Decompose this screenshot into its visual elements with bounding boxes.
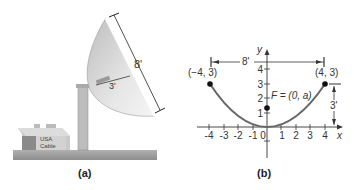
svg-text:3: 3 bbox=[307, 130, 313, 141]
figure: USA Cable 8' 3' (a) bbox=[0, 0, 354, 190]
panel-b-graph: -4 -3 -2 -1 0 1 2 3 4 x y 1 2 3 4 (−4, 3… bbox=[188, 44, 343, 158]
x-tick-labels: -4 -3 -2 -1 0 1 2 3 4 bbox=[205, 130, 329, 141]
dish-pole bbox=[78, 86, 88, 150]
svg-text:2: 2 bbox=[257, 93, 263, 104]
cable-building: USA Cable bbox=[18, 124, 70, 150]
svg-text:0: 0 bbox=[260, 130, 266, 141]
svg-text:1: 1 bbox=[257, 108, 263, 119]
svg-text:4: 4 bbox=[257, 64, 263, 75]
svg-text:-1: -1 bbox=[249, 130, 258, 141]
svg-text:4: 4 bbox=[322, 130, 328, 141]
x-axis-label: x bbox=[336, 130, 343, 141]
dish-depth-label: 3' bbox=[109, 81, 116, 91]
point-right-label: (4, 3) bbox=[315, 67, 338, 78]
point-left-label: (−4, 3) bbox=[188, 67, 217, 78]
ground bbox=[13, 150, 157, 160]
svg-text:1: 1 bbox=[279, 130, 285, 141]
svg-text:-3: -3 bbox=[220, 130, 229, 141]
width-label: 8' bbox=[242, 56, 250, 67]
pole-cap bbox=[76, 84, 90, 88]
sign-cable: Cable bbox=[40, 143, 56, 149]
point-right bbox=[322, 81, 328, 87]
sign-usa: USA bbox=[40, 136, 52, 142]
caption-b: (b) bbox=[257, 167, 271, 179]
y-tick-labels: 1 2 3 4 bbox=[257, 64, 263, 119]
panel-a-illustration: USA Cable 8' 3' bbox=[13, 13, 165, 160]
satellite-dish bbox=[87, 18, 155, 116]
height-label: 3' bbox=[330, 100, 338, 111]
focus-point bbox=[264, 105, 270, 111]
svg-text:3: 3 bbox=[257, 79, 263, 90]
svg-text:2: 2 bbox=[293, 130, 299, 141]
caption-a: (a) bbox=[78, 167, 92, 179]
y-axis-label: y bbox=[256, 44, 263, 55]
svg-text:-2: -2 bbox=[234, 130, 243, 141]
point-left bbox=[207, 81, 213, 87]
dish-width-label: 8' bbox=[134, 58, 142, 70]
focus-label: F = (0, a) bbox=[271, 90, 312, 101]
svg-text:-4: -4 bbox=[205, 130, 214, 141]
